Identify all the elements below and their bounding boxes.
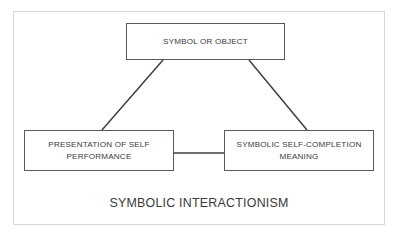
diagram-caption: SYMBOLIC INTERACTIONISM	[13, 196, 385, 210]
node-presentation-of-self-label: PRESENTATION OF SELF PERFORMANCE	[44, 139, 153, 162]
node-presentation-of-self: PRESENTATION OF SELF PERFORMANCE	[24, 130, 174, 171]
node-symbolic-self-completion: SYMBOLIC SELF-COMPLETION MEANING	[224, 130, 374, 171]
node-symbol-or-object-label: SYMBOL OR OBJECT	[159, 36, 252, 48]
node-symbolic-self-completion-label: SYMBOLIC SELF-COMPLETION MEANING	[233, 139, 366, 162]
node-symbol-or-object: SYMBOL OR OBJECT	[126, 23, 285, 60]
symbolic-interactionism-diagram: SYMBOL OR OBJECT PRESENTATION OF SELF PE…	[0, 0, 399, 234]
